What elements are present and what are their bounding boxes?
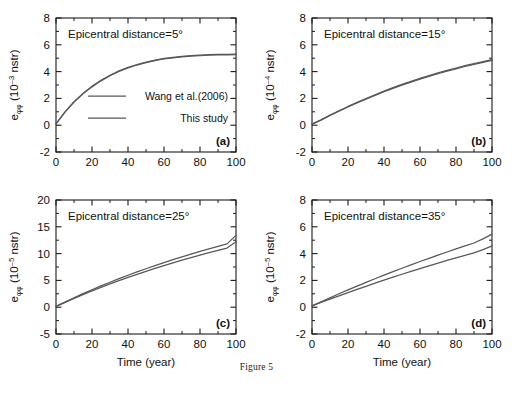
figure-5: 020406080100-202468Epicentral distance=5… bbox=[0, 0, 513, 397]
panel-letter-b: (b) bbox=[471, 135, 486, 147]
y-tick-label: 6 bbox=[300, 221, 306, 233]
legend-label-1: Wang et al.(2006) bbox=[145, 90, 228, 102]
y-tick-label: 10 bbox=[37, 248, 50, 260]
x-tick-label: 100 bbox=[482, 338, 501, 350]
series-line-1 bbox=[312, 60, 492, 125]
y-tick-label: 6 bbox=[300, 39, 306, 51]
y-tick-label: 15 bbox=[37, 221, 50, 233]
x-tick-label: 100 bbox=[482, 156, 501, 168]
y-tick-label: 20 bbox=[37, 194, 50, 206]
x-tick-label: 40 bbox=[122, 338, 135, 350]
x-tick-label: 80 bbox=[194, 338, 207, 350]
series-line-2 bbox=[312, 60, 492, 124]
x-tick-label: 100 bbox=[226, 338, 245, 350]
y-tick-label: 4 bbox=[300, 66, 307, 78]
x-tick-label: 0 bbox=[53, 338, 59, 350]
x-tick-label: 40 bbox=[378, 156, 391, 168]
legend: Wang et al.(2006)This study bbox=[88, 90, 229, 124]
y-axis-label-b: eφφ (10–4 nstr) bbox=[263, 49, 279, 120]
x-tick-label: 0 bbox=[309, 338, 315, 350]
panel-title-d: Epicentral distance=35° bbox=[324, 210, 445, 222]
panel-title-c: Epicentral distance=25° bbox=[68, 210, 189, 222]
y-tick-label: -2 bbox=[40, 146, 50, 158]
series-line-2 bbox=[312, 246, 492, 306]
x-tick-label: 20 bbox=[86, 338, 99, 350]
y-tick-label: 2 bbox=[300, 92, 306, 104]
chart-panel-c: 020406080100-505101520Epicentral distanc… bbox=[0, 182, 257, 368]
y-axis-label-c: eφφ (10–5 nstr) bbox=[7, 231, 23, 302]
panel-letter-a: (a) bbox=[216, 135, 230, 147]
x-tick-label: 100 bbox=[226, 156, 245, 168]
legend-label-2: This study bbox=[180, 112, 229, 124]
y-tick-label: -2 bbox=[296, 328, 306, 340]
panel-title-a: Epicentral distance=5° bbox=[68, 28, 183, 40]
x-tick-label: 20 bbox=[342, 156, 355, 168]
x-tick-label: 20 bbox=[342, 338, 355, 350]
y-axis-label-a: eφφ (10–3 nstr) bbox=[7, 49, 23, 120]
y-tick-label: 5 bbox=[44, 274, 50, 286]
y-tick-label: -5 bbox=[40, 328, 50, 340]
y-tick-label: 8 bbox=[44, 12, 50, 24]
y-axis-label-d: eφφ (10–5 nstr) bbox=[263, 231, 279, 302]
x-tick-label: 0 bbox=[53, 156, 59, 168]
y-tick-label: 2 bbox=[300, 274, 306, 286]
x-tick-label: 80 bbox=[450, 338, 463, 350]
y-tick-label: 0 bbox=[44, 301, 50, 313]
x-tick-label: 40 bbox=[122, 156, 135, 168]
figure-caption: Figure 5 bbox=[0, 362, 513, 372]
x-tick-label: 0 bbox=[309, 156, 315, 168]
x-tick-label: 80 bbox=[450, 156, 463, 168]
y-tick-label: 2 bbox=[44, 92, 50, 104]
y-tick-label: -2 bbox=[296, 146, 306, 158]
y-tick-label: 0 bbox=[300, 301, 306, 313]
panel-title-b: Epicentral distance=15° bbox=[324, 28, 445, 40]
series-line-2 bbox=[56, 242, 236, 307]
y-tick-label: 0 bbox=[44, 119, 50, 131]
x-tick-label: 60 bbox=[158, 156, 171, 168]
y-tick-label: 4 bbox=[300, 248, 307, 260]
y-tick-label: 4 bbox=[44, 66, 51, 78]
x-tick-label: 40 bbox=[378, 338, 391, 350]
x-tick-label: 80 bbox=[194, 156, 207, 168]
panel-letter-d: (d) bbox=[471, 317, 486, 329]
chart-panel-b: 020406080100-202468Epicentral distance=1… bbox=[256, 0, 513, 186]
y-tick-label: 8 bbox=[300, 194, 306, 206]
x-tick-label: 60 bbox=[158, 338, 171, 350]
x-tick-label: 60 bbox=[414, 156, 427, 168]
series-line-1 bbox=[312, 234, 492, 306]
x-tick-label: 20 bbox=[86, 156, 99, 168]
x-tick-label: 60 bbox=[414, 338, 427, 350]
y-tick-label: 8 bbox=[300, 12, 306, 24]
panel-letter-c: (c) bbox=[216, 317, 230, 329]
chart-panel-d: 020406080100-202468Epicentral distance=3… bbox=[256, 182, 513, 368]
y-tick-label: 0 bbox=[300, 119, 306, 131]
y-tick-label: 6 bbox=[44, 39, 50, 51]
chart-panel-a: 020406080100-202468Epicentral distance=5… bbox=[0, 0, 257, 186]
